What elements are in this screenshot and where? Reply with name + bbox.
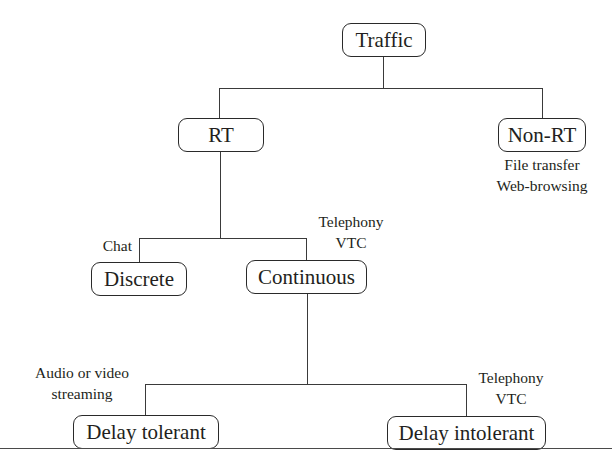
node-rt: RT [178, 118, 264, 152]
annotation-delay-intolerant: Telephony VTC [468, 367, 554, 409]
connector-traffic-branch [219, 88, 543, 89]
connector-traffic-down [383, 56, 384, 88]
annotation-line: Telephony [468, 367, 554, 388]
node-non-rt: Non-RT [498, 118, 586, 152]
connector-continuous-down [307, 294, 308, 384]
annotation-line: Telephony [308, 211, 394, 232]
connector-continuous-branch [145, 384, 467, 385]
node-traffic: Traffic [342, 23, 426, 57]
annotation-discrete: Chat [80, 235, 132, 256]
connector-to-delay-tolerant [145, 384, 146, 415]
annotation-line: Web-browsing [482, 175, 602, 196]
node-discrete: Discrete [91, 262, 187, 296]
annotation-delay-tolerant: Audio or video streaming [20, 362, 144, 404]
node-delay-intolerant: Delay intolerant [387, 416, 546, 450]
annotation-line: streaming [20, 383, 144, 404]
connector-to-non-rt [542, 88, 543, 118]
connector-rt-down [220, 152, 221, 239]
annotation-line: Audio or video [20, 362, 144, 383]
annotation-line: VTC [468, 388, 554, 409]
annotation-line: VTC [308, 232, 394, 253]
annotation-line: Chat [80, 235, 132, 256]
annotation-continuous: Telephony VTC [308, 211, 394, 253]
node-continuous: Continuous [246, 260, 367, 294]
bottom-divider [0, 448, 612, 449]
connector-rt-branch [139, 238, 307, 239]
connector-to-discrete [139, 238, 140, 263]
node-delay-tolerant: Delay tolerant [73, 415, 219, 449]
annotation-non-rt: File transfer Web-browsing [482, 154, 602, 196]
annotation-line: File transfer [482, 154, 602, 175]
connector-to-rt [219, 88, 220, 118]
